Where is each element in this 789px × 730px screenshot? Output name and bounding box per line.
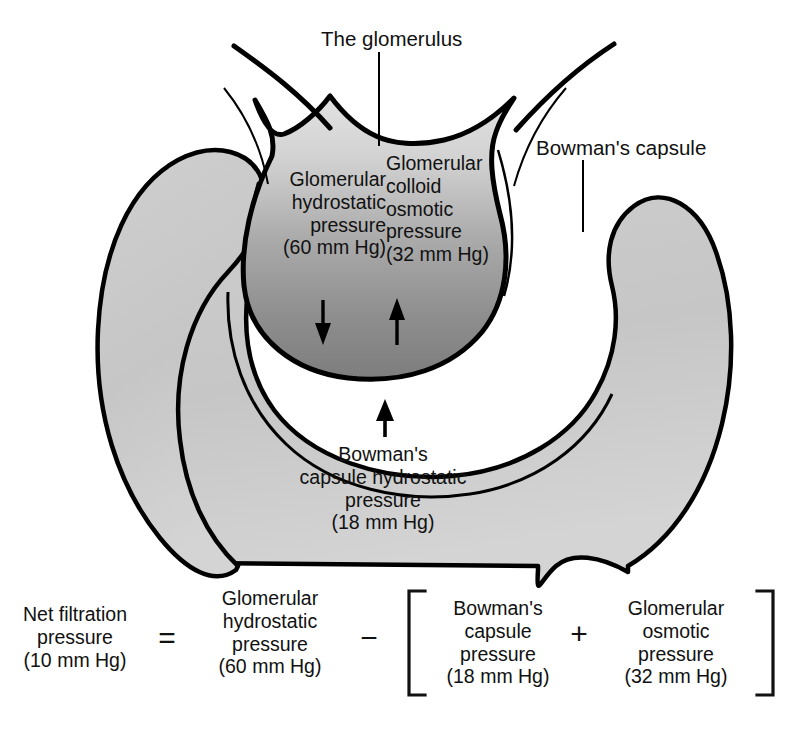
- efferent-arteriole-wall: [516, 44, 614, 130]
- equation-term-net-filtration-pressure: Net filtration pressure (10 mm Hg): [4, 603, 146, 671]
- up-arrow-bowmans-capsule-hydrostatic: [376, 399, 394, 437]
- label-bowmans-capsule-hydrostatic-pressure: Bowman's capsule hydrostatic pressure (1…: [254, 443, 512, 534]
- equation-term-glomerular-hydrostatic-pressure: Glomerular hydrostatic pressure (60 mm H…: [190, 587, 350, 678]
- label-glomerular-hydrostatic-pressure: Glomerular hydrostatic pressure (60 mm H…: [247, 168, 386, 259]
- label-glomerular-colloid-osmotic-pressure: Glomerular colloid osmotic pressure (32 …: [386, 152, 522, 266]
- label-bowmans-capsule: Bowman's capsule: [536, 136, 706, 160]
- equation-term-bowmans-capsule-pressure: Bowman's capsule pressure (18 mm Hg): [422, 597, 574, 688]
- afferent-arteriole-wall: [234, 46, 330, 128]
- net-filtration-pressure-equation: Net filtration pressure (10 mm Hg) = Glo…: [0, 583, 789, 703]
- equation-operator-equals: =: [146, 623, 188, 653]
- equation-operator-minus: −: [348, 623, 390, 653]
- equation-term-glomerular-osmotic-pressure: Glomerular osmotic pressure (32 mm Hg): [596, 597, 756, 688]
- equation-operator-plus: +: [558, 619, 600, 649]
- label-the-glomerulus: The glomerulus: [321, 27, 462, 51]
